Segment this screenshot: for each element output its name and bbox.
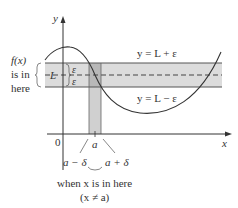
epsilon-delta-diagram: y x 0 y = L + ε y = L − ε L ε ε f(x) is …	[0, 0, 238, 208]
epsilon-bottom-label: ε	[72, 76, 76, 87]
fx-note-line1: f(x)	[11, 54, 27, 67]
epsilon-top-label: ε	[72, 64, 76, 75]
x-interval-brace	[88, 167, 102, 170]
x-note-line2: (x ≠ a)	[80, 191, 110, 204]
y-axis-label: y	[52, 12, 58, 24]
a-plus-delta-pointer	[103, 139, 115, 153]
upper-line-label: y = L + ε	[137, 47, 177, 59]
a-minus-delta-label: a − δ	[63, 156, 87, 168]
fx-note-line3: here	[11, 82, 30, 94]
a-minus-delta-pointer	[80, 139, 88, 153]
fx-note-line2: is in	[11, 68, 30, 80]
lower-line-label: y = L − ε	[137, 92, 177, 104]
x-axis-arrow-icon	[225, 132, 232, 137]
a-label: a	[92, 138, 98, 150]
L-label: L	[49, 69, 56, 81]
x-axis-label: x	[221, 137, 227, 149]
origin-label: 0	[55, 136, 61, 148]
y-axis-arrow-icon	[61, 16, 66, 23]
a-plus-delta-label: a + δ	[105, 156, 129, 168]
fx-brace	[35, 63, 41, 87]
x-note-line1: when x is in here	[57, 177, 132, 189]
